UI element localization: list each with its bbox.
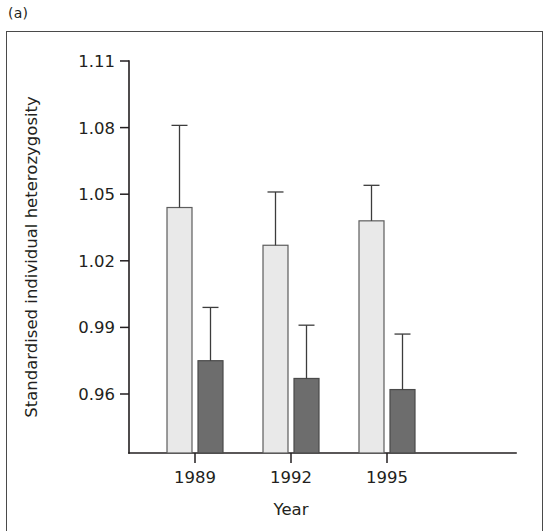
- y-axis-tick-label: 1.05: [78, 185, 115, 204]
- y-axis-tick-label: 1.11: [78, 52, 115, 71]
- bar-dark-1995: [390, 390, 415, 453]
- y-axis-tick-label: 1.02: [78, 252, 115, 271]
- x-axis-tick-label: 1989: [174, 468, 216, 487]
- x-axis-tick-label: 1995: [366, 468, 408, 487]
- x-axis-tick-label: 1992: [270, 468, 312, 487]
- y-axis-tick-label: 1.08: [78, 119, 115, 138]
- panel-label: (a): [8, 4, 28, 22]
- bar-light-1989: [167, 208, 192, 453]
- bars-layer: [167, 208, 415, 453]
- y-axis-title: Standardised individual heterozygosity: [22, 96, 41, 418]
- bar-dark-1989: [198, 361, 223, 453]
- x-axis: 198919921995: [129, 453, 516, 487]
- figure-frame: 1.111.081.051.020.990.96 198919921995 Ye…: [6, 31, 543, 531]
- y-axis: 1.111.081.051.020.990.96: [78, 52, 129, 453]
- bar-light-1995: [359, 221, 384, 453]
- bar-light-1992: [263, 245, 288, 453]
- bar-dark-1992: [294, 378, 319, 453]
- x-axis-title: Year: [273, 500, 309, 519]
- y-axis-tick-label: 0.99: [78, 318, 115, 337]
- y-axis-tick-label: 0.96: [78, 385, 115, 404]
- bar-chart-plot: 1.111.081.051.020.990.96 198919921995 Ye…: [7, 32, 543, 531]
